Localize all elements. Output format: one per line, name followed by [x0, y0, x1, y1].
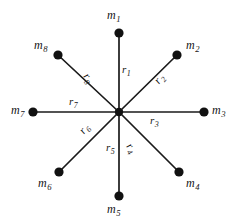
star-diagram: m1 m2 m3 m4 m5 m6 m7 m8 r1 r2 r3 r4 r5 r…	[0, 0, 235, 224]
mass-label-m2: m2	[186, 39, 199, 54]
mass-node-m1	[114, 28, 123, 37]
radius-label-r1: r1	[122, 64, 131, 78]
spoke-r4	[119, 112, 179, 172]
mass-node-m6	[54, 167, 63, 176]
mass-node-m2	[172, 50, 181, 59]
radius-label-r3: r3	[150, 115, 159, 129]
star-diagram-canvas	[0, 0, 235, 224]
mass-node-m4	[174, 167, 183, 176]
mass-node-m3	[199, 107, 208, 116]
radius-label-r7: r7	[69, 96, 78, 110]
spoke-r8	[58, 55, 119, 112]
mass-label-m8: m8	[34, 39, 47, 54]
mass-label-m5: m5	[107, 203, 120, 218]
mass-label-m1: m1	[107, 9, 120, 24]
mass-label-m7: m7	[11, 104, 24, 119]
mass-label-m6: m6	[38, 177, 51, 192]
mass-node-m8	[53, 50, 62, 59]
mass-node-m5	[114, 191, 123, 200]
mass-label-m3: m3	[212, 104, 225, 119]
mass-label-m4: m4	[186, 177, 199, 192]
mass-node-m7	[28, 107, 37, 116]
center-hub-node	[115, 108, 123, 116]
radius-label-r5: r5	[106, 142, 115, 156]
